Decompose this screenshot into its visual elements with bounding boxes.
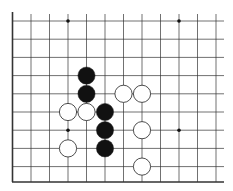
white-stone <box>78 103 95 120</box>
white-stone <box>59 140 76 157</box>
star-point <box>177 19 181 23</box>
white-stone <box>133 122 150 139</box>
star-point <box>66 128 70 132</box>
black-stone <box>78 85 95 102</box>
go-board <box>0 0 233 191</box>
white-stone <box>133 158 150 175</box>
white-stone <box>115 85 132 102</box>
black-stone <box>96 103 113 120</box>
star-point <box>177 128 181 132</box>
star-point <box>66 19 70 23</box>
black-stone <box>78 67 95 84</box>
black-stone <box>96 140 113 157</box>
white-stone <box>133 85 150 102</box>
white-stone <box>59 103 76 120</box>
black-stone <box>96 122 113 139</box>
